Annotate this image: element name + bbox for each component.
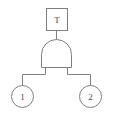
connector-gate-to-event-1 — [23, 68, 46, 86]
and-gate-shape[interactable] — [42, 40, 72, 68]
fault-tree-diagram: T 1 2 — [0, 0, 113, 113]
top-event-label: T — [54, 15, 60, 25]
connector-gate-to-event-2 — [68, 68, 91, 86]
fault-tree-canvas: T 1 2 — [0, 0, 113, 113]
basic-event-label-1: 1 — [20, 92, 25, 102]
basic-event-label-2: 2 — [88, 92, 93, 102]
